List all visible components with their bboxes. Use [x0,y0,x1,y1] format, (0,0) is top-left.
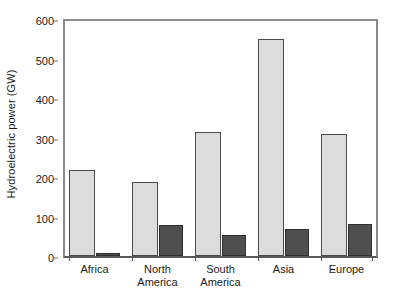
bar-light [132,182,158,256]
y-tick-label: 500 [36,55,54,67]
bar-dark [222,235,246,256]
y-axis-title: Hydroelectric power (GW) [0,0,22,268]
y-tick-label: 600 [36,15,54,27]
x-tick-label: NorthAmerica [137,263,177,288]
y-tick-label: 300 [36,134,54,146]
y-tick-mark [53,179,58,180]
bar-light [69,170,95,257]
bar-dark [285,229,309,256]
bar-group [132,19,183,256]
x-axis-tick-labels: AfricaNorthAmericaSouthAmericaAsiaEurope [63,263,378,303]
y-axis-tick-labels: 0100200300400500600 [22,0,58,307]
bar-light [195,132,221,256]
bar-group [258,19,309,256]
x-tick-mark [258,256,259,261]
x-tick-mark [372,256,373,261]
bars-area [63,19,378,258]
x-tick-mark [321,256,322,261]
y-tick-mark [53,218,58,219]
y-tick-label: 200 [36,173,54,185]
x-axis-tick-marks [63,256,378,262]
x-tick-label: Europe [329,263,364,276]
x-tick-mark [69,256,70,261]
x-tick-label: Africa [80,263,108,276]
bar-light [321,134,347,256]
y-tick-label: 400 [36,94,54,106]
y-tick-mark [53,258,58,259]
y-tick-mark [53,100,58,101]
bar-group [195,19,246,256]
y-tick-mark [53,60,58,61]
y-axis-title-text: Hydroelectric power (GW) [5,70,17,199]
bar-light [258,39,284,256]
bar-dark [348,224,372,256]
bar-group [69,19,120,256]
hydroelectric-power-bar-chart: Hydroelectric power (GW) 010020030040050… [0,0,397,307]
bar-group [321,19,372,256]
x-tick-label: Asia [273,263,294,276]
y-tick-mark [53,139,58,140]
x-tick-mark [195,256,196,261]
x-tick-mark [132,256,133,261]
y-tick-mark [53,21,58,22]
bar-dark [159,225,183,256]
x-tick-label: SouthAmerica [200,263,240,288]
y-tick-label: 100 [36,213,54,225]
